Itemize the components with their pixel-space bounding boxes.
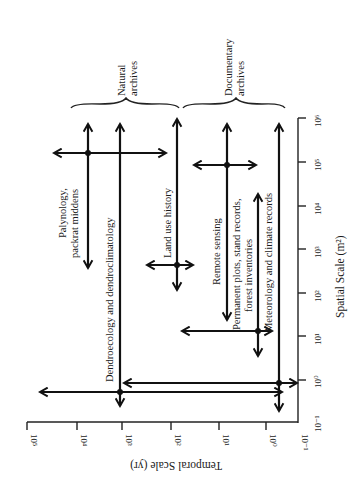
svg-text:10²: 10² — [173, 434, 183, 446]
svg-text:10⁴: 10⁴ — [79, 434, 89, 446]
documentary-archives-label: Documentary archives — [223, 38, 246, 96]
spatial-axis-title: Spatial Scale (m²) — [334, 235, 347, 318]
svg-text:10¹: 10¹ — [221, 434, 231, 446]
meteorology-label: Meteorology and climate records — [263, 193, 274, 332]
remote-sensing-center-dot — [224, 162, 230, 168]
svg-text:packrat middens: packrat middens — [69, 189, 80, 258]
svg-text:10⁴: 10⁴ — [313, 203, 323, 215]
temporal-axis-title: Temporal Scale (yr) — [130, 459, 222, 472]
spatial-axis-ticks: 10⁻¹ 10⁰ 10¹ 10² 10³ 10⁴ 10⁵ 10⁶ — [313, 115, 323, 432]
svg-text:Documentary: Documentary — [223, 38, 234, 96]
permanent-plots-center-dot — [255, 328, 261, 334]
dendroecology-label: Dendroecology and dendroclimatology — [104, 217, 115, 382]
permanent-plots-label: Permanent plots, stand records, forest i… — [231, 198, 254, 330]
natural-archives-label: Natural archives — [116, 61, 139, 96]
svg-text:10¹: 10¹ — [313, 333, 323, 345]
svg-text:Permanent plots, stand records: Permanent plots, stand records, — [231, 198, 242, 330]
meteorology-center-dot — [276, 380, 282, 386]
svg-text:10³: 10³ — [124, 434, 134, 446]
svg-text:10⁵: 10⁵ — [29, 434, 39, 446]
svg-text:Natural: Natural — [116, 64, 127, 96]
svg-text:10⁵: 10⁵ — [313, 159, 323, 171]
svg-text:archives: archives — [128, 61, 139, 96]
svg-text:10⁻¹: 10⁻¹ — [313, 415, 323, 432]
svg-text:10⁶: 10⁶ — [313, 115, 323, 127]
scale-diagram: Natural archives Documentary archives 10… — [0, 0, 364, 495]
svg-text:10⁰: 10⁰ — [313, 375, 323, 388]
palynology-label: Palynology, packrat middens — [57, 188, 80, 258]
svg-text:Palynology,: Palynology, — [57, 188, 68, 238]
remote-sensing-label: Remote sensing — [211, 217, 222, 285]
land-use-center-dot — [174, 262, 180, 268]
svg-text:10⁰: 10⁰ — [268, 434, 278, 447]
palynology-center-dot — [85, 150, 91, 156]
natural-archives-brace — [71, 98, 179, 108]
svg-text:10³: 10³ — [313, 246, 323, 258]
svg-text:forest inventories: forest inventories — [243, 239, 254, 312]
spatial-axis — [298, 118, 306, 423]
dendroecology-center-dot — [117, 389, 123, 395]
land-use-label: Land use history — [162, 187, 173, 258]
svg-text:archives: archives — [235, 61, 246, 96]
temporal-axis-ticks: 10⁻¹ 10⁰ 10¹ 10² 10³ 10⁴ 10⁵ — [29, 434, 310, 451]
svg-text:10⁻¹: 10⁻¹ — [300, 434, 310, 451]
svg-text:10²: 10² — [313, 290, 323, 302]
documentary-archives-brace — [183, 98, 285, 108]
temporal-axis — [27, 422, 298, 430]
